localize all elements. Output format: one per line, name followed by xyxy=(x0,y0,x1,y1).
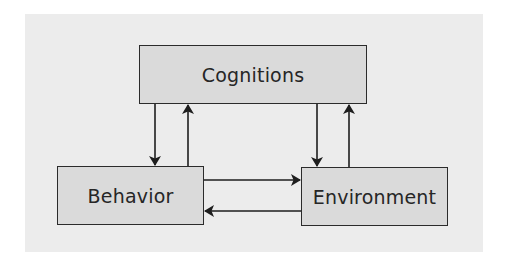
node-environment: Environment xyxy=(301,167,448,226)
node-cognitions: Cognitions xyxy=(139,45,367,104)
node-cognitions-label: Cognitions xyxy=(202,64,305,86)
node-behavior: Behavior xyxy=(57,166,204,225)
node-environment-label: Environment xyxy=(313,186,437,208)
node-behavior-label: Behavior xyxy=(88,185,174,207)
